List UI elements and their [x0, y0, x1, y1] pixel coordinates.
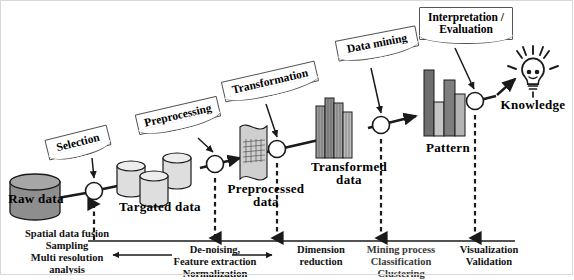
annotation-selection-line3: Multi resolution [6, 252, 128, 264]
label-targated-data: Targated data [108, 200, 212, 213]
annotation-selection-line1: Spatial data fusion [6, 228, 128, 240]
node-data-mining [373, 117, 390, 134]
annotation-transformation-line1: Dimension [283, 244, 359, 256]
annotation-mining-line2: Classification [356, 256, 446, 268]
annotation-interpretation-line1: Visualization [445, 244, 533, 256]
annotation-preprocessing-line1: De-noising, [155, 244, 275, 256]
leader-preprocessing [198, 138, 213, 152]
annotation-mining-line1: Mining process [356, 244, 446, 256]
annotation-mining-line3: Clustering [356, 268, 446, 280]
label-transformed-line2: data [304, 173, 394, 186]
label-preprocessed-data: Preprocessed data [218, 182, 314, 208]
annotation-mining: Mining process Classification Clustering [356, 244, 446, 280]
leader-selection [92, 158, 94, 178]
annotation-transformation: Dimension reduction [283, 244, 359, 268]
callout-interpretation-line1: Interpretation / [426, 11, 506, 23]
flow-seg-node5-to-knowledge [497, 79, 515, 95]
annotation-interpretation: Visualization Validation [445, 244, 533, 268]
node-interpretation [467, 93, 484, 110]
annotation-selection-line2: Sampling [6, 240, 128, 252]
annotation-transformation-line2: reduction [283, 256, 359, 268]
callout-interpretation-line2: Evaluation [426, 23, 506, 35]
label-pattern: Pattern [412, 141, 484, 154]
leader-data-mining [371, 68, 381, 113]
annotation-preprocessing-line2: Feature extraction [155, 256, 275, 268]
annotation-interpretation-line2: Validation [445, 256, 533, 268]
label-transformed-data: Transformed data [304, 160, 394, 186]
node-selection [86, 183, 103, 200]
label-raw-data: Raw data [8, 192, 64, 205]
annotation-selection: Spatial data fusion Sampling Multi resol… [6, 228, 128, 276]
knowledge-lightbulb-icon [508, 46, 558, 97]
leader-transformation [266, 104, 277, 137]
leader-interpretation [455, 48, 474, 89]
pattern-bars-shape [424, 70, 465, 136]
label-preprocessed-line2: data [218, 195, 314, 208]
node-transformation [269, 141, 286, 158]
node-preprocessing [207, 156, 224, 173]
annotation-selection-line4: analysis [6, 264, 128, 276]
annotation-preprocessing: De-noising, Feature extraction Normaliza… [155, 244, 275, 280]
label-knowledge: Knowledge [492, 98, 574, 111]
transformed-data-bars-shape [316, 98, 352, 158]
preprocessed-data-sheet-shape [240, 125, 267, 180]
annotation-preprocessing-line3: Normalization [155, 268, 275, 280]
callout-interpretation[interactable]: Interpretation / Evaluation [419, 7, 513, 40]
